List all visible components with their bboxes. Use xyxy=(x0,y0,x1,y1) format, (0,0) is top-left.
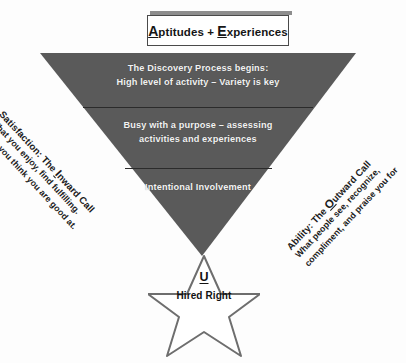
funnel-band-discovery: The Discovery Process begins: High level… xyxy=(83,61,313,90)
header-cap-a: A xyxy=(148,23,158,39)
header-label: Aptitudes + Experiences xyxy=(148,23,288,39)
header-rest-a: ptitudes xyxy=(158,26,204,38)
funnel-band-purpose: Busy with a purpose – assessing activiti… xyxy=(96,118,300,147)
aptitudes-experiences-header: Aptitudes + Experiences xyxy=(147,15,289,46)
left-side-label-satisfaction: Satisfaction: The Inward Call What you e… xyxy=(0,108,98,232)
star-symbol-u: U xyxy=(148,270,260,284)
hired-right-funnel-diagram: Aptitudes + Experiences The Discovery Pr… xyxy=(0,0,406,363)
header-cap-e: E xyxy=(217,23,226,39)
band-discovery-line-2: High level of activity – Variety is key xyxy=(83,75,313,89)
header-plus: + xyxy=(204,26,217,38)
band-purpose-line-2: activities and experiences xyxy=(96,132,300,146)
band-discovery-line-1: The Discovery Process begins: xyxy=(83,61,313,75)
band-involvement-line-1: Intentional Involvement xyxy=(110,180,286,194)
right-side-label-ability: Ability: The Outward Call What people se… xyxy=(284,147,401,269)
hired-right-star: U Hired Right xyxy=(148,254,260,358)
star-caption-hired-right: Hired Right xyxy=(148,290,260,301)
right-label-sub-1: What people see, recognize, xyxy=(292,156,391,261)
header-rest-e: xperiences xyxy=(227,26,288,38)
band-purpose-line-1: Busy with a purpose – assessing xyxy=(96,118,300,132)
funnel-band-involvement: Intentional Involvement xyxy=(110,180,286,194)
